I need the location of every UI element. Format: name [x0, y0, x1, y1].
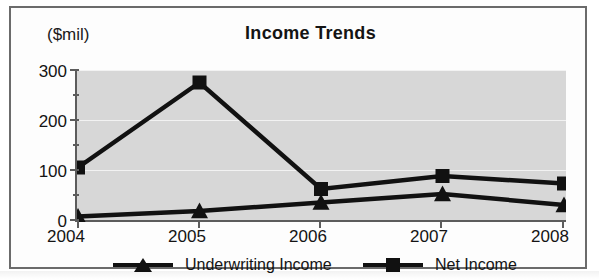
y-axis-unit-label: ($mil): [47, 25, 90, 45]
y-tick-label-100: 100: [11, 163, 67, 180]
x-tick-label-2007: 2007: [389, 228, 469, 245]
x-tick-label-2004: 2004: [26, 228, 106, 245]
data-point-marker: [557, 177, 566, 191]
data-point-marker: [314, 182, 328, 196]
gridlines: [77, 71, 566, 171]
x-tick-label-2006: 2006: [268, 228, 348, 245]
series-net-income: [77, 76, 566, 197]
x-tick-label-2008: 2008: [510, 228, 590, 245]
y-axis-ticks: [68, 68, 80, 224]
y-tick-label-300: 300: [11, 63, 67, 80]
figure-frame: Income Trends ($mil) 300 200 100 0 2004 …: [9, 6, 587, 269]
x-axis-ticks: [77, 220, 569, 230]
chart-legend: Underwriting Income Net Income: [111, 253, 531, 277]
x-tick-label-2005: 2005: [147, 228, 227, 245]
y-tick-label-200: 200: [11, 113, 67, 130]
legend-entry-net-income: Net Income: [361, 253, 517, 277]
series-layer: [77, 76, 566, 223]
square-marker-icon: [361, 255, 425, 275]
series-line: [78, 83, 564, 190]
plot-area: [75, 70, 566, 222]
data-point-marker: [436, 169, 450, 183]
chart-title: Income Trends: [11, 23, 599, 44]
chart-canvas: [77, 70, 566, 222]
legend-label-underwriting-income: Underwriting Income: [185, 256, 332, 274]
triangle-marker-icon: [111, 255, 175, 275]
legend-entry-underwriting-income: Underwriting Income: [111, 253, 332, 277]
data-point-marker: [193, 76, 207, 90]
legend-label-net-income: Net Income: [435, 256, 517, 274]
